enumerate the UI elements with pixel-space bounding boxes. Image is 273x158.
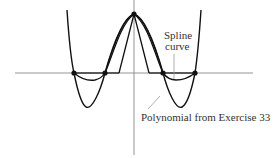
- node-point-4: [192, 70, 197, 75]
- polynomial-leader-line: [148, 96, 160, 109]
- polynomial-label: Polynomial from Exercise 33: [141, 112, 270, 123]
- node-point-2: [102, 70, 107, 75]
- node-point-3: [160, 70, 165, 75]
- interpolation-figure: [0, 0, 273, 158]
- node-point-1: [71, 70, 76, 75]
- spline-label-line2: curve: [165, 41, 192, 52]
- peak-point: [131, 11, 136, 16]
- spline-curve-label: Spline curve: [164, 30, 192, 52]
